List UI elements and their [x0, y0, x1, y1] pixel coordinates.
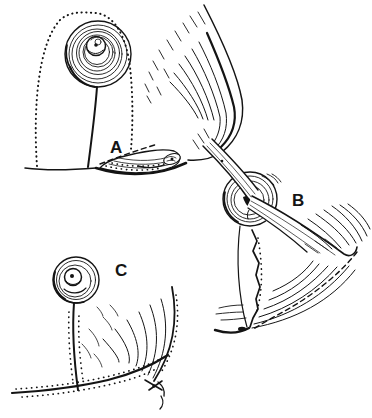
hatch-line — [103, 339, 119, 362]
panel-label-a: A — [110, 138, 122, 157]
dashed-inframammary-line-b — [252, 252, 357, 330]
roll-end-core — [171, 158, 174, 161]
hatch-line — [264, 266, 328, 309]
areola-crease — [64, 288, 86, 293]
baseline-left — [25, 168, 96, 170]
hatch-ticks — [82, 305, 118, 367]
knot-core — [152, 384, 156, 388]
hatch-line — [199, 42, 227, 150]
knot-tail — [160, 396, 163, 409]
twisted-pedicle-band — [193, 129, 357, 259]
apex-ticks — [216, 305, 246, 320]
apex-blob — [238, 327, 246, 331]
suture-knot — [145, 380, 164, 409]
nipple-dot — [70, 274, 74, 278]
suture-line-vertical — [73, 303, 78, 390]
hatch-line — [254, 266, 349, 324]
hatch-line — [273, 261, 313, 291]
nipple-areola-a — [65, 21, 131, 87]
flap-fold-edge — [207, 33, 235, 147]
breast-mound-hatching-c — [82, 287, 178, 381]
areola-shading — [58, 293, 84, 303]
panel-label-c: C — [115, 261, 127, 280]
hatch-line — [127, 320, 138, 366]
hatch-line — [179, 64, 208, 120]
flap-silhouette — [188, 5, 243, 160]
deepithelialized-edge — [250, 230, 260, 327]
panel-c: C — [12, 257, 178, 409]
hatch-line — [153, 299, 166, 378]
suture-stipple — [79, 316, 83, 380]
panel-label-b: B — [292, 191, 304, 210]
breast-flap-hatching-a — [145, 5, 243, 160]
hatch-line — [348, 204, 370, 229]
nipple-dot — [94, 43, 98, 47]
twist-tail — [247, 210, 249, 219]
pedicle-stem-a — [88, 87, 97, 167]
nipple-areola-c — [53, 257, 99, 303]
mound-edge — [154, 287, 175, 381]
surgical-illustration: A — [0, 0, 372, 418]
breast-cone-hatching-lower — [216, 261, 355, 328]
illustration-canvas: A — [0, 0, 372, 418]
band-upper-fill — [203, 139, 258, 201]
hatch-line — [324, 210, 356, 243]
hatch-line — [139, 312, 147, 371]
hatch-line — [340, 205, 367, 236]
band-fleck — [221, 160, 224, 163]
panel-b: B — [193, 129, 370, 332]
